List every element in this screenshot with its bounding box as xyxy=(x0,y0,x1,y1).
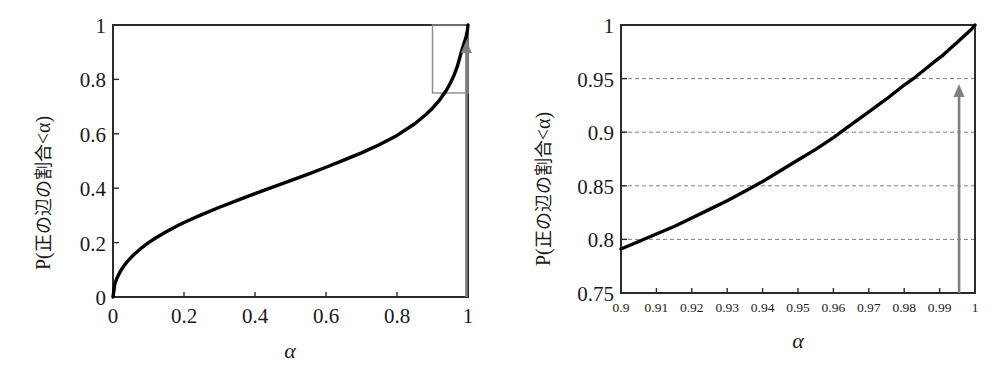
left-ylabel-suffix: <α) xyxy=(32,116,55,144)
left-ylabel-cjk: 正の辺の割合 xyxy=(33,144,54,252)
chart-panel-zoomed: P(正の辺の割合<α) xyxy=(503,0,1006,374)
chart-panel-full-range: P(正の辺の割合<α) 0 0.2 0.4 0.6 0.8 1 xyxy=(0,0,503,374)
right-ytick-1: 0.8 xyxy=(588,228,614,252)
svg-text:P(正の辺の割合<α): P(正の辺の割合<α) xyxy=(32,116,55,270)
left-plot-svg: P(正の辺の割合<α) 0 0.2 0.4 0.6 0.8 1 xyxy=(0,0,503,374)
left-ytick-1: 0.2 xyxy=(80,232,106,256)
svg-text:P(正の辺の割合<α): P(正の辺の割合<α) xyxy=(532,112,555,266)
right-threshold-arrow xyxy=(954,84,965,293)
left-y-tick-labels: 0 0.2 0.4 0.6 0.8 1 xyxy=(80,14,107,310)
left-ytick-5: 1 xyxy=(96,14,107,38)
left-xtick-3: 0.6 xyxy=(313,304,339,328)
right-xtick-0: 0.9 xyxy=(613,300,630,315)
right-x-ticks xyxy=(621,286,975,293)
right-plot-svg: P(正の辺の割合<α) xyxy=(503,0,1006,374)
right-y-axis-label: P(正の辺の割合<α) xyxy=(532,112,555,266)
right-ylabel-prefix: P( xyxy=(532,248,555,266)
left-data-curve xyxy=(113,25,468,297)
left-threshold-arrow xyxy=(461,40,472,297)
right-ytick-4: 0.95 xyxy=(577,68,614,92)
right-ytick-5: 1 xyxy=(604,14,615,38)
right-xtick-2: 0.92 xyxy=(680,300,704,315)
left-ylabel-prefix: P( xyxy=(32,252,55,270)
right-xtick-6: 0.96 xyxy=(822,300,846,315)
right-ytick-3: 0.9 xyxy=(588,121,614,145)
right-xtick-8: 0.98 xyxy=(892,300,916,315)
right-x-axis-title: α xyxy=(792,328,804,353)
left-x-ticks xyxy=(113,290,468,297)
left-xtick-1: 0.2 xyxy=(171,304,197,328)
left-ytick-3: 0.6 xyxy=(80,123,106,147)
figure-container: P(正の辺の割合<α) 0 0.2 0.4 0.6 0.8 1 xyxy=(0,0,1006,374)
right-ytick-2: 0.85 xyxy=(577,175,614,199)
left-y-axis-label: P(正の辺の割合<α) xyxy=(32,116,55,270)
left-x-axis-title: α xyxy=(284,338,296,363)
right-x-tick-labels: 0.9 0.91 0.92 0.93 0.94 0.95 0.96 0.97 0… xyxy=(613,300,979,315)
right-xtick-3: 0.93 xyxy=(715,300,739,315)
left-ytick-4: 0.8 xyxy=(80,68,106,92)
right-xtick-5: 0.95 xyxy=(786,300,810,315)
left-plot-frame xyxy=(113,25,468,297)
right-xtick-4: 0.94 xyxy=(751,300,775,315)
left-ytick-0: 0 xyxy=(96,286,107,310)
right-ylabel-cjk: 正の辺の割合 xyxy=(533,140,554,248)
left-xtick-2: 0.4 xyxy=(242,304,269,328)
right-y-tick-labels: 0.75 0.8 0.85 0.9 0.95 1 xyxy=(577,14,614,306)
left-xtick-5: 1 xyxy=(463,304,474,328)
right-xtick-1: 0.91 xyxy=(645,300,669,315)
left-xtick-0: 0 xyxy=(108,304,119,328)
right-ytick-0: 0.75 xyxy=(577,282,614,306)
left-xtick-4: 0.8 xyxy=(384,304,410,328)
right-xtick-7: 0.97 xyxy=(857,300,881,315)
right-xtick-9: 0.99 xyxy=(928,300,952,315)
right-xtick-10: 1 xyxy=(972,300,979,315)
right-ylabel-suffix: <α) xyxy=(532,112,555,140)
right-data-curve xyxy=(621,25,975,249)
left-x-tick-labels: 0 0.2 0.4 0.6 0.8 1 xyxy=(108,304,474,328)
left-ytick-2: 0.4 xyxy=(80,177,107,201)
